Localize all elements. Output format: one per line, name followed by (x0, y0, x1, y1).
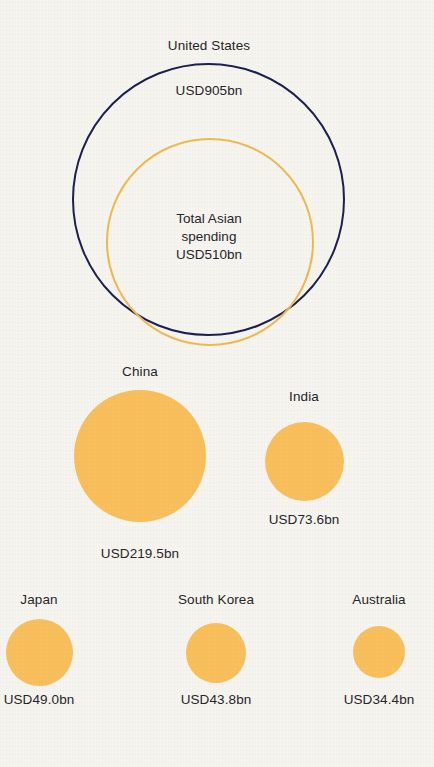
label-australia: Australia (352, 592, 405, 608)
value-total-asian-spending: USD510bn (176, 246, 242, 264)
label-total-asian-spending: Total Asian spending USD510bn (176, 210, 242, 263)
total-asian-line-2: spending (176, 228, 242, 246)
total-asian-line-1: Total Asian (176, 210, 242, 228)
bubble-australia (353, 626, 405, 678)
label-south-korea: South Korea (178, 592, 254, 608)
bubble-india (265, 422, 344, 501)
label-china: China (122, 364, 158, 380)
bubble-japan (6, 619, 73, 686)
bubble-china (74, 390, 206, 522)
value-australia: USD34.4bn (344, 692, 415, 708)
value-china: USD219.5bn (101, 546, 179, 562)
label-japan: Japan (20, 592, 57, 608)
value-japan: USD49.0bn (4, 692, 75, 708)
bubble-chart: United States USD905bn Total Asian spend… (0, 0, 434, 767)
value-united-states: USD905bn (176, 83, 243, 99)
value-south-korea: USD43.8bn (181, 692, 252, 708)
label-united-states: United States (168, 38, 250, 54)
value-india: USD73.6bn (269, 512, 340, 528)
bubble-south-korea (186, 623, 246, 683)
label-india: India (289, 389, 319, 405)
